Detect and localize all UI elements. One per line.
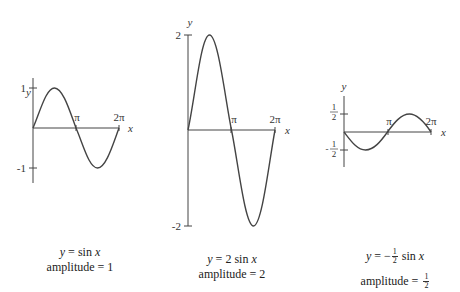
eq-x: x: [251, 252, 256, 266]
caption-equation: y = 2 sin x: [172, 252, 292, 267]
x-tick-label-2pi: 2π: [269, 113, 281, 125]
y-tick-label-neg-half-num: 1: [332, 139, 337, 149]
frac-den: 2: [424, 282, 428, 290]
caption-equation: y = − 1 2 sin x: [340, 248, 450, 265]
eq-minus: = −: [371, 249, 391, 264]
eq-x: x: [95, 245, 100, 259]
x-tick-label-pi: π: [74, 111, 80, 123]
x-tick-label-2pi: 2π: [113, 111, 125, 123]
caption-equation: y = sin x: [20, 245, 140, 260]
y-tick-label-1: 1: [21, 82, 27, 94]
y-tick-label-half-den: 2: [332, 112, 337, 122]
frac-den: 2: [393, 257, 397, 265]
y-axis-label: y: [341, 80, 347, 92]
x-tick-label-pi: π: [231, 113, 237, 125]
caption-2-sin-x: y = 2 sin x amplitude = 2: [172, 252, 292, 282]
y-axis-label: y: [187, 16, 193, 28]
y-tick-label-neg2: -2: [172, 220, 181, 232]
x-tick-label-2pi: 2π: [425, 115, 437, 127]
caption-amplitude: amplitude = 2: [172, 267, 292, 282]
eq-body: sin: [399, 249, 419, 264]
x-tick-label-pi: π: [386, 115, 392, 127]
x-axis-label: x: [127, 122, 133, 134]
caption-neg-half-sin-x: y = − 1 2 sin x amplitude = 1 2: [340, 248, 450, 290]
y-axis-label: y: [25, 86, 31, 98]
amp-fraction: 1 2: [423, 273, 429, 290]
caption-amplitude: amplitude = 1 2: [340, 273, 450, 290]
x-axis-label: x: [440, 126, 446, 138]
y-tick-label-neg-half-den: 2: [332, 149, 337, 159]
caption-amplitude: amplitude = 1: [20, 260, 140, 275]
amp-label: amplitude =: [361, 274, 422, 289]
graph-neg-half-sin-x: y 1 2 - 1 2 π 2π x: [326, 80, 447, 167]
caption-sin-x: y = sin x amplitude = 1: [20, 245, 140, 275]
x-axis-label: x: [284, 124, 290, 136]
y-tick-label-half-num: 1: [332, 102, 337, 112]
graph-2-sin-x: y 2 -2 π 2π x: [172, 16, 290, 232]
eq-x: x: [419, 249, 424, 264]
eq-body: = 2 sin: [213, 252, 252, 266]
eq-body: = sin: [65, 245, 95, 259]
eq-fraction: 1 2: [392, 248, 398, 265]
y-tick-label-neg-sign: -: [326, 144, 329, 154]
y-tick-label-2: 2: [176, 29, 182, 41]
y-tick-label-neg1: -1: [17, 162, 26, 174]
graph-sin-x: y 1 -1 π 2π x: [17, 78, 133, 183]
